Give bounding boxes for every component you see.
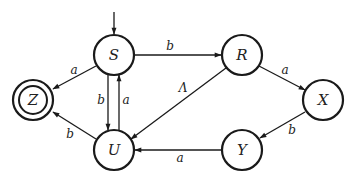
state-z-accepting: Z — [13, 80, 53, 120]
automaton-diagram: b a b a b Λ a b a S R X Y U Z — [0, 0, 359, 184]
edge-label-s-r: b — [166, 39, 174, 53]
edge-label-x-y: b — [288, 123, 296, 137]
edge-label-r-x: a — [281, 63, 288, 77]
state-label-s: S — [109, 46, 119, 64]
edge-label-r-u: Λ — [178, 81, 188, 95]
state-label-u: U — [108, 141, 122, 159]
edge-label-s-u: b — [97, 93, 105, 107]
state-y: Y — [222, 130, 262, 170]
edge-x-y — [260, 112, 305, 138]
state-label-z: Z — [27, 91, 39, 109]
state-label-r: R — [235, 46, 247, 64]
edge-r-u — [131, 68, 226, 139]
state-x: X — [303, 80, 343, 120]
edge-label-u-s: a — [122, 93, 129, 107]
edge-label-y-u: a — [176, 151, 183, 165]
state-r: R — [222, 35, 262, 75]
edge-label-u-z: b — [66, 127, 74, 141]
state-label-x: X — [317, 91, 330, 109]
edge-label-s-z: a — [70, 63, 77, 77]
state-u: U — [94, 130, 134, 170]
edge-u-z — [53, 112, 96, 139]
state-s: S — [94, 35, 134, 75]
